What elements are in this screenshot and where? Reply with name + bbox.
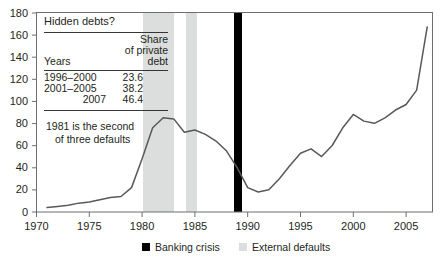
y-tick-label: 140 [10,51,28,63]
y-tick-label: 180 [10,7,28,19]
legend-swatch-banking-crisis [142,243,150,251]
y-axis-labels: 0 20 40 60 80 100 120 140 160 180 [10,7,28,218]
x-tick-label: 1980 [130,220,154,232]
y-axis-ticks [32,13,37,212]
x-axis-ticks [37,212,407,217]
x-tick-label: 1975 [77,220,101,232]
chart-svg: 0 20 40 60 80 100 120 140 160 180 1970 1… [0,0,441,262]
y-tick-label: 0 [22,206,28,218]
legend-swatch-external-defaults [239,243,247,251]
y-tick-label: 100 [10,95,28,107]
x-tick-label: 1970 [24,220,48,232]
x-tick-label: 1985 [183,220,207,232]
inset-table-col1-header: Years [44,55,70,67]
legend-label-banking-crisis: Banking crisis [155,241,220,253]
banking-crisis-marker [234,13,242,212]
x-tick-label: 1995 [288,220,312,232]
y-tick-label: 60 [16,139,28,151]
default-note-line1: 1981 is the second [46,120,134,132]
external-default-band-2 [186,13,197,212]
default-note-line2: of three defaults [55,133,130,145]
inset-table-col2-header-line3: debt [148,55,169,67]
x-tick-label: 1990 [235,220,259,232]
y-tick-label: 120 [10,73,28,85]
inset-table-title: Hidden debts? [44,15,115,27]
chart-container: 0 20 40 60 80 100 120 140 160 180 1970 1… [0,0,441,262]
y-tick-label: 20 [16,183,28,195]
legend-label-external-defaults: External defaults [252,241,330,253]
y-tick-label: 160 [10,29,28,41]
inset-table-row-years: 2007 [83,93,107,105]
x-tick-label: 2000 [341,220,365,232]
x-tick-label: 2005 [394,220,418,232]
default-note-annotation: 1981 is the second of three defaults [46,120,134,145]
y-tick-label: 80 [16,117,28,129]
x-axis-labels: 1970 1975 1980 1985 1990 1995 2000 2005 [24,220,418,232]
inset-table-row-share: 46.4 [123,93,144,105]
chart-legend: Banking crisis External defaults [142,241,330,253]
y-tick-label: 40 [16,161,28,173]
